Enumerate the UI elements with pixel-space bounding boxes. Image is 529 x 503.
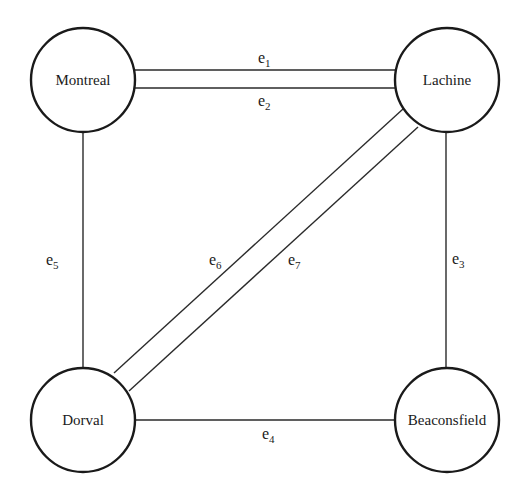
node-beaconsfield: Beaconsfield xyxy=(395,368,499,472)
node-label-beaconsfield: Beaconsfield xyxy=(408,412,487,428)
node-label-lachine: Lachine xyxy=(423,72,472,88)
edge-label-e2: e2 xyxy=(258,92,271,112)
node-lachine: Lachine xyxy=(395,28,499,132)
node-label-montreal: Montreal xyxy=(56,72,111,88)
node-montreal: Montreal xyxy=(31,28,135,132)
edge-label-e3: e3 xyxy=(452,250,465,270)
edge-e6 xyxy=(114,109,403,373)
edge-e7 xyxy=(129,127,418,391)
edge-label-e7: e7 xyxy=(288,251,301,271)
edge-label-e5: e5 xyxy=(46,251,59,271)
edge-label-e6: e6 xyxy=(209,251,222,271)
edge-label-e4: e4 xyxy=(262,425,275,445)
edge-label-e1: e1 xyxy=(258,49,271,69)
node-label-dorval: Dorval xyxy=(62,412,104,428)
node-dorval: Dorval xyxy=(31,368,135,472)
graph-diagram: Montreal Lachine Dorval Beaconsfield e1 … xyxy=(0,0,529,503)
